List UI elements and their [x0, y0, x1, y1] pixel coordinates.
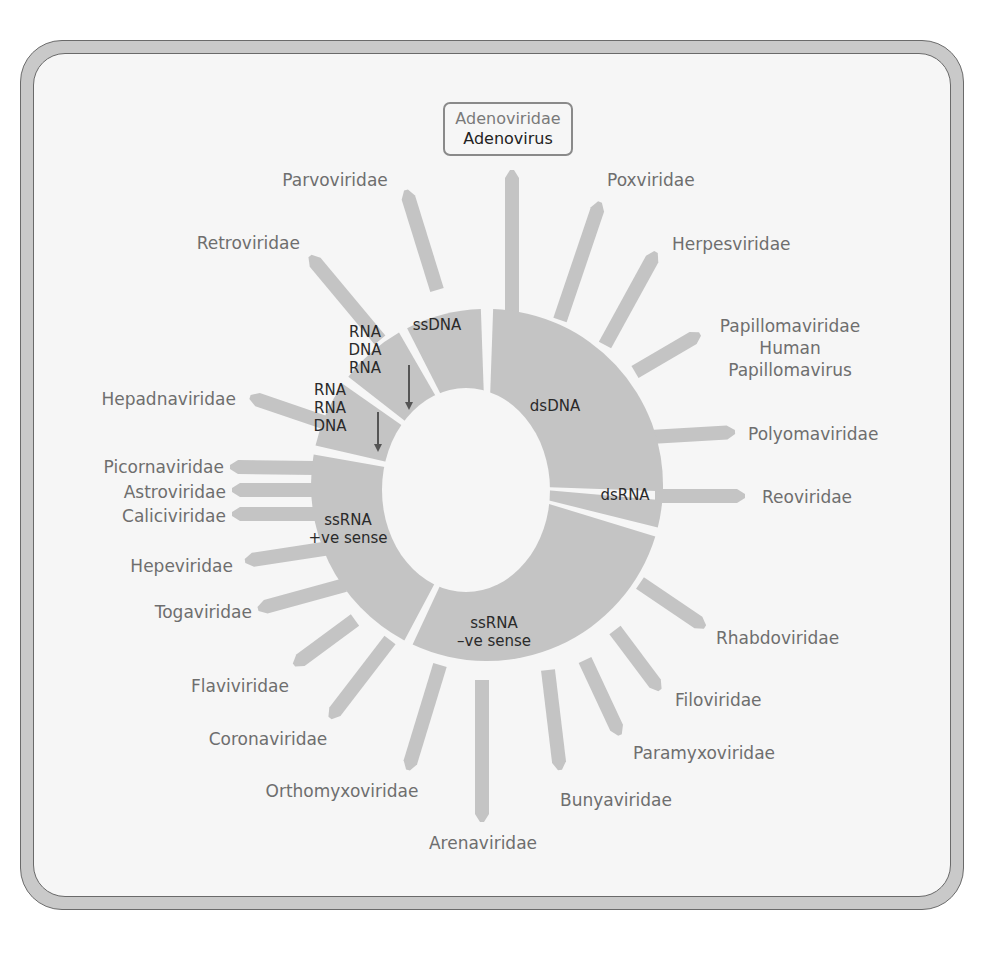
bar-bunyaviridae [541, 669, 566, 770]
callout-virus-name: Adenovirus [463, 129, 553, 149]
bar-reoviridae [655, 489, 745, 503]
bar-coronaviridae [328, 636, 395, 719]
family-label-reoviridae: Reoviridae [762, 487, 852, 507]
adenoviridae-callout: Adenoviridae Adenovirus [443, 102, 573, 156]
family-label-orthomyxoviridae: Orthomyxoviridae [266, 781, 419, 801]
bar-parvoviridae [402, 189, 444, 292]
bar-astroviridae [232, 483, 315, 497]
family-label-filoviridae: Filoviridae [675, 690, 762, 710]
family-label-picornaviridae: Picornaviridae [104, 457, 224, 477]
bar-orthomyxoviridae [404, 663, 447, 771]
family-label-hepeviridae: Hepeviridae [130, 556, 233, 576]
callout-family-name: Adenoviridae [455, 109, 560, 129]
diagram-stage: dsDNAdsRNAssRNA–ve sensessRNA+ve senseRN… [0, 0, 988, 969]
bar-poxviridae [553, 201, 604, 322]
bar-herpesviridae [599, 251, 658, 348]
family-label-papillomaviridae: PapillomaviridaeHumanPapillomavirus [720, 316, 860, 380]
family-label-astroviridae: Astroviridae [124, 482, 226, 502]
segment-label-dsDNA: dsDNA [530, 397, 581, 415]
bar-arenaviridae [475, 680, 489, 822]
family-label-hepadnaviridae: Hepadnaviridae [101, 389, 236, 409]
family-label-polyomaviridae: Polyomaviridae [748, 424, 878, 444]
family-label-rhabdoviridae: Rhabdoviridae [716, 628, 839, 648]
bar-picornaviridae [230, 460, 315, 475]
family-label-paramyxoviridae: Paramyxoviridae [633, 743, 775, 763]
family-label-flaviviridae: Flaviviridae [191, 676, 289, 696]
family-label-coronaviridae: Coronaviridae [209, 729, 328, 749]
segment-label-rna-dna-rna: RNADNARNA [348, 323, 382, 377]
bar-polyomaviridae [650, 425, 736, 444]
bar-filoviridae [609, 626, 661, 691]
bar-caliciviridae [232, 507, 315, 521]
family-label-caliciviridae: Caliciviridae [122, 506, 226, 526]
segment-label-rna-rna-dna: RNARNADNA [313, 381, 347, 435]
family-label-herpesviridae: Herpesviridae [672, 234, 791, 254]
family-label-arenaviridae: Arenaviridae [429, 833, 537, 853]
bar-rhabdoviridae [636, 577, 706, 628]
segment-label-ssDNA: ssDNA [413, 316, 462, 334]
family-label-parvoviridae: Parvoviridae [282, 170, 388, 190]
bar-papillomaviridae [631, 332, 701, 378]
bar-togaviridae [257, 578, 346, 613]
family-label-togaviridae: Togaviridae [154, 602, 252, 622]
bar-paramyxoviridae [579, 657, 623, 736]
family-label-poxviridae: Poxviridae [607, 170, 695, 190]
ring-center-hole [382, 388, 550, 592]
family-label-retroviridae: Retroviridae [197, 233, 300, 253]
family-label-bunyaviridae: Bunyaviridae [560, 790, 672, 810]
segment-label-dsRNA: dsRNA [600, 486, 650, 504]
bar-adenoviridae [505, 170, 519, 312]
bar-flaviviridae [293, 614, 359, 666]
